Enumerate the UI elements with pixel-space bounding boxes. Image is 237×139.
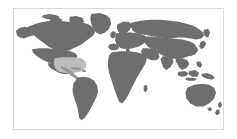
- world-map-figure: [0, 0, 237, 139]
- world-map-canvas[interactable]: [14, 9, 223, 129]
- map-frame: [13, 8, 224, 130]
